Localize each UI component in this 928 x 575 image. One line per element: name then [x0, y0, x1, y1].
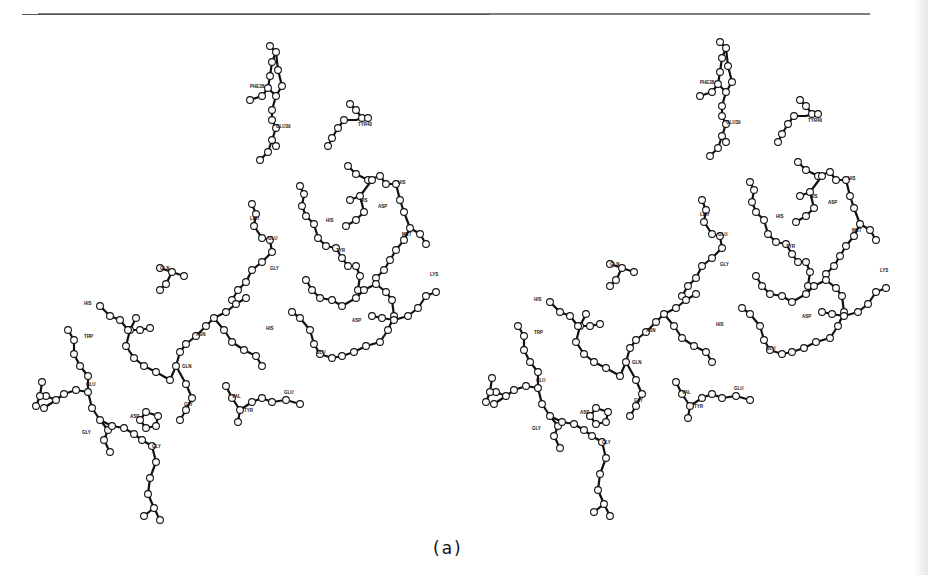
- atom: [377, 173, 384, 180]
- atom: [139, 437, 146, 444]
- atom: [653, 319, 660, 326]
- atom: [303, 277, 310, 284]
- atom: [785, 121, 792, 128]
- atom: [719, 113, 726, 120]
- residue-label: HIS: [84, 301, 92, 306]
- atom: [177, 349, 184, 356]
- atom: [797, 193, 804, 200]
- atom: [723, 89, 730, 96]
- atom: [143, 409, 150, 416]
- residue-label: HIS: [776, 214, 784, 219]
- atom: [101, 437, 108, 444]
- atom: [707, 153, 714, 160]
- atom: [791, 113, 798, 120]
- atom: [719, 133, 726, 140]
- atom: [581, 427, 588, 434]
- atom: [601, 501, 608, 508]
- atom: [841, 313, 848, 320]
- atom: [613, 277, 620, 284]
- atom: [39, 379, 46, 386]
- atom: [789, 251, 796, 258]
- atom: [237, 407, 244, 414]
- residue-label: GLU: [766, 346, 776, 351]
- atom: [833, 177, 840, 184]
- atom: [547, 413, 554, 420]
- atom: [145, 491, 152, 498]
- atom: [717, 69, 724, 76]
- atom: [719, 103, 726, 110]
- atom: [153, 459, 160, 466]
- atom: [583, 311, 590, 318]
- atom: [699, 263, 706, 270]
- atom: [589, 433, 596, 440]
- atom: [673, 305, 680, 312]
- atom: [259, 395, 266, 402]
- atom: [41, 405, 48, 412]
- atom: [489, 375, 496, 382]
- atom: [793, 219, 800, 226]
- atom: [603, 455, 610, 462]
- atom: [801, 345, 808, 352]
- atom: [715, 145, 722, 152]
- atom: [683, 297, 690, 304]
- atom: [97, 303, 104, 310]
- atom: [53, 397, 60, 404]
- atom: [633, 403, 640, 410]
- atom: [591, 509, 598, 516]
- atom: [61, 391, 68, 398]
- atom: [353, 295, 360, 302]
- atom: [183, 341, 190, 348]
- atom: [329, 297, 336, 304]
- residue-label: GLU: [316, 350, 326, 355]
- atom: [369, 177, 376, 184]
- atom: [581, 351, 588, 358]
- atom: [535, 369, 542, 376]
- atom: [147, 475, 154, 482]
- atom: [121, 425, 128, 432]
- atom: [733, 393, 740, 400]
- atom: [597, 321, 604, 328]
- atom: [259, 235, 266, 242]
- residue-label: PHE38: [700, 80, 715, 85]
- atom: [779, 351, 786, 358]
- stereo-left-view: PHE38GLU39TYR40HISHISASPMETLYSGLUGLYHISL…: [33, 43, 440, 524]
- atom: [575, 323, 582, 330]
- residue-label: TYR40: [808, 118, 823, 123]
- atom: [789, 299, 796, 306]
- atom: [723, 45, 730, 52]
- atom: [181, 273, 188, 280]
- atom: [831, 263, 838, 270]
- atom: [807, 269, 814, 276]
- atom: [773, 239, 780, 246]
- atom: [631, 269, 638, 276]
- residue-label: GLU39: [276, 124, 291, 129]
- atom: [251, 223, 258, 230]
- atom: [747, 397, 754, 404]
- atom: [803, 167, 810, 174]
- atom: [603, 365, 610, 372]
- residue-label: ASP: [828, 200, 837, 205]
- atom: [391, 317, 398, 324]
- atom: [383, 181, 390, 188]
- atom: [265, 85, 272, 92]
- atom: [273, 49, 280, 56]
- atom: [857, 221, 864, 228]
- atom: [749, 199, 756, 206]
- atom: [759, 283, 766, 290]
- atom: [729, 79, 736, 86]
- residue-label: ASP: [580, 410, 589, 415]
- atom: [795, 159, 802, 166]
- atom: [699, 395, 706, 402]
- atom: [819, 173, 826, 180]
- atom: [269, 399, 276, 406]
- atom: [325, 143, 332, 150]
- residue-label: LYS: [430, 272, 438, 277]
- atom: [363, 343, 370, 350]
- atom: [693, 291, 700, 298]
- atom: [603, 419, 610, 426]
- atom: [855, 309, 862, 316]
- atom: [73, 387, 80, 394]
- atom: [867, 227, 874, 234]
- atom: [177, 417, 184, 424]
- atom: [299, 203, 306, 210]
